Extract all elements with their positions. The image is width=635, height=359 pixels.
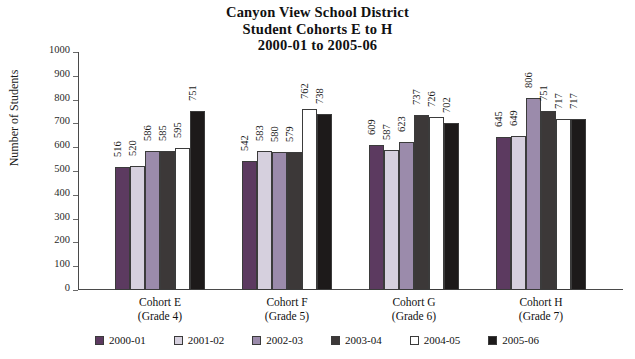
chart-title-line-2: Student Cohorts E to H bbox=[0, 21, 635, 38]
legend-label: 2005-06 bbox=[502, 334, 539, 346]
bar-value-label: 542 bbox=[239, 135, 250, 151]
bar-value-label: 580 bbox=[269, 126, 280, 142]
bar: 751 bbox=[541, 111, 556, 290]
bar-value-label: 595 bbox=[172, 123, 183, 139]
bar-value-label: 583 bbox=[254, 125, 265, 141]
bar: 726 bbox=[429, 117, 444, 290]
bar: 623 bbox=[399, 142, 414, 290]
bar-value-label: 649 bbox=[508, 110, 519, 126]
legend-item[interactable]: 2005-06 bbox=[488, 334, 539, 346]
bar: 717 bbox=[571, 119, 586, 290]
legend-item[interactable]: 2003-04 bbox=[331, 334, 382, 346]
bar: 585 bbox=[160, 151, 175, 290]
category-label-name: Cohort F bbox=[227, 296, 347, 310]
y-axis-line bbox=[78, 52, 79, 290]
legend-item[interactable]: 2004-05 bbox=[410, 334, 461, 346]
bar-value-label: 623 bbox=[396, 116, 407, 132]
y-axis-tick-mark bbox=[73, 76, 78, 77]
y-axis-tick-label: 400 bbox=[54, 187, 70, 198]
bar: 738 bbox=[317, 114, 332, 290]
legend-item[interactable]: 2001-02 bbox=[174, 334, 225, 346]
bar-value-label: 737 bbox=[411, 89, 422, 105]
bar: 595 bbox=[175, 148, 190, 290]
y-axis-tick-label: 300 bbox=[54, 211, 70, 222]
y-axis-tick-mark bbox=[73, 290, 78, 291]
legend-label: 2002-03 bbox=[266, 334, 303, 346]
bar: 702 bbox=[444, 123, 459, 290]
bar: 806 bbox=[526, 98, 541, 290]
plot-area: 01002003004005006007008009001000 5165205… bbox=[78, 52, 623, 290]
bar-value-label: 609 bbox=[366, 119, 377, 135]
bar: 542 bbox=[242, 161, 257, 290]
bar: 516 bbox=[115, 167, 130, 290]
legend-swatch bbox=[410, 336, 419, 345]
legend-swatch bbox=[252, 336, 261, 345]
y-axis-tick-mark bbox=[73, 100, 78, 101]
y-axis-tick-label: 1000 bbox=[49, 44, 70, 55]
bar: 580 bbox=[272, 152, 287, 290]
bar: 751 bbox=[190, 111, 205, 290]
bar-value-label: 806 bbox=[523, 72, 534, 88]
bar-value-label: 717 bbox=[568, 93, 579, 109]
bar-value-label: 520 bbox=[127, 140, 138, 156]
bar-group: 516520586585595751 bbox=[115, 52, 205, 290]
y-axis-tick-mark bbox=[73, 195, 78, 196]
legend: 2000-012001-022002-032003-042004-052005-… bbox=[95, 334, 595, 346]
y-axis-tick-mark bbox=[73, 171, 78, 172]
bar-chart: Canyon View School District Student Coho… bbox=[0, 0, 635, 359]
bar-group: 645649806751717717 bbox=[496, 52, 586, 290]
category-label-grade: (Grade 5) bbox=[227, 310, 347, 324]
bar-value-label: 585 bbox=[157, 125, 168, 141]
bar-value-label: 587 bbox=[381, 124, 392, 140]
bar-group: 542583580579762738 bbox=[242, 52, 332, 290]
bar-value-label: 717 bbox=[553, 93, 564, 109]
bar-value-label: 762 bbox=[299, 83, 310, 99]
bar-value-label: 516 bbox=[112, 141, 123, 157]
category-label-grade: (Grade 6) bbox=[354, 310, 474, 324]
bar-value-label: 586 bbox=[142, 125, 153, 141]
y-axis-tick-label: 800 bbox=[54, 92, 70, 103]
bar-group: 609587623737726702 bbox=[369, 52, 459, 290]
bar: 609 bbox=[369, 145, 384, 290]
bar: 520 bbox=[130, 166, 145, 290]
bar: 762 bbox=[302, 109, 317, 290]
legend-item[interactable]: 2002-03 bbox=[252, 334, 303, 346]
y-axis-tick-label: 900 bbox=[54, 68, 70, 79]
y-axis-tick-label: 600 bbox=[54, 139, 70, 150]
legend-item[interactable]: 2000-01 bbox=[95, 334, 146, 346]
y-axis-tick-label: 200 bbox=[54, 234, 70, 245]
bar: 583 bbox=[257, 151, 272, 290]
category-label-grade: (Grade 4) bbox=[100, 310, 220, 324]
legend-swatch bbox=[331, 336, 340, 345]
category-label: Cohort E(Grade 4) bbox=[100, 296, 220, 323]
y-axis-tick-mark bbox=[73, 147, 78, 148]
bar-value-label: 579 bbox=[284, 126, 295, 142]
bar-value-label: 702 bbox=[441, 97, 452, 113]
y-axis-tick-mark bbox=[73, 242, 78, 243]
y-axis-tick-mark bbox=[73, 123, 78, 124]
y-axis-tick-label: 0 bbox=[65, 282, 70, 293]
legend-swatch bbox=[488, 336, 497, 345]
bar: 649 bbox=[511, 136, 526, 290]
chart-title: Canyon View School District Student Coho… bbox=[0, 4, 635, 54]
bar-value-label: 726 bbox=[426, 91, 437, 107]
bar: 587 bbox=[384, 150, 399, 290]
legend-label: 2001-02 bbox=[188, 334, 225, 346]
category-label: Cohort H(Grade 7) bbox=[481, 296, 601, 323]
bar: 586 bbox=[145, 151, 160, 290]
legend-label: 2003-04 bbox=[345, 334, 382, 346]
y-axis-tick-label: 700 bbox=[54, 115, 70, 126]
bar: 645 bbox=[496, 137, 511, 291]
category-label: Cohort F(Grade 5) bbox=[227, 296, 347, 323]
category-label-name: Cohort H bbox=[481, 296, 601, 310]
y-axis-tick-label: 500 bbox=[54, 163, 70, 174]
chart-title-line-1: Canyon View School District bbox=[0, 4, 635, 21]
y-axis-tick-label: 100 bbox=[54, 258, 70, 269]
legend-swatch bbox=[95, 336, 104, 345]
bar: 737 bbox=[414, 115, 429, 290]
y-axis-tick-mark bbox=[73, 219, 78, 220]
bar: 579 bbox=[287, 152, 302, 290]
category-label: Cohort G(Grade 6) bbox=[354, 296, 474, 323]
y-axis-label: Number of Students bbox=[7, 70, 22, 167]
category-label-name: Cohort E bbox=[100, 296, 220, 310]
